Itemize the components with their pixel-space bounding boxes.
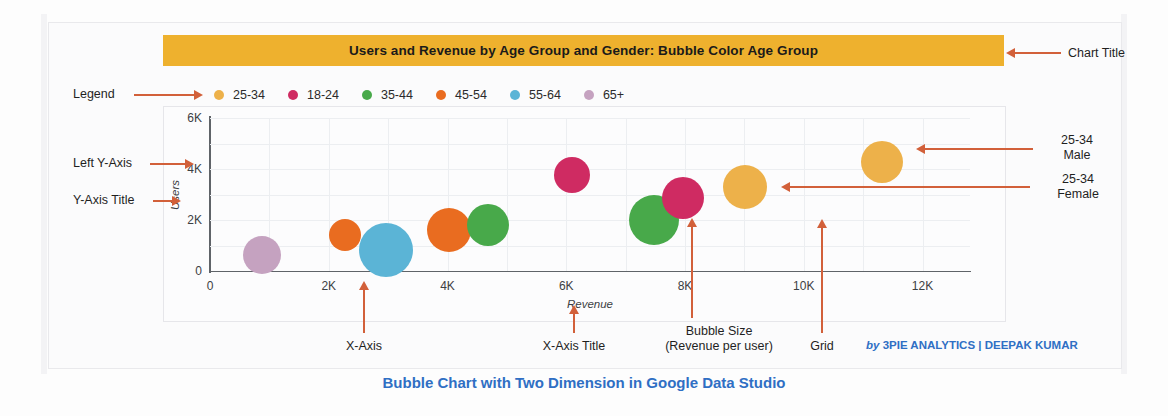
arrow-grid-head xyxy=(817,219,827,228)
gridline-vertical xyxy=(566,118,567,271)
legend-item[interactable]: 35-44 xyxy=(362,88,413,102)
credit-by: by xyxy=(866,339,883,351)
annotation-female-line2: Female xyxy=(1036,187,1120,202)
legend-item[interactable]: 55-64 xyxy=(510,88,561,102)
arrow-female xyxy=(790,186,1030,188)
x-axis-tick-label: 4K xyxy=(440,279,455,293)
arrow-x-axis-title-head xyxy=(569,305,579,314)
page-edge-left xyxy=(41,14,47,374)
y-axis-tick-label: 2K xyxy=(187,213,202,227)
arrow-chart-title-head xyxy=(1006,48,1015,58)
bubble-point[interactable] xyxy=(467,204,509,246)
annotation-bubble-size: Bubble Size (Revenue per user) xyxy=(639,324,799,354)
arrow-left-y-axis xyxy=(150,163,187,165)
annotation-male-line1: 25-34 xyxy=(1040,133,1114,148)
legend-label: 55-64 xyxy=(529,88,561,102)
arrow-female-head xyxy=(781,182,790,192)
annotation-left-y-axis: Left Y-Axis xyxy=(73,156,132,171)
legend-swatch-icon xyxy=(214,90,224,100)
annotation-y-axis-title: Y-Axis Title xyxy=(73,193,134,208)
legend-label: 45-54 xyxy=(455,88,487,102)
bubble-point[interactable] xyxy=(554,157,590,193)
annotation-bubble-size-line1: Bubble Size xyxy=(639,324,799,339)
arrow-male xyxy=(925,148,1033,150)
credit-name: 3PIE ANALYTICS | DEEPAK KUMAR xyxy=(883,339,1078,351)
gridline-vertical xyxy=(626,118,627,271)
legend-item[interactable]: 65+ xyxy=(584,88,624,102)
gridline-horizontal xyxy=(210,169,970,170)
legend-swatch-icon xyxy=(584,90,594,100)
arrow-legend xyxy=(134,94,196,96)
legend-swatch-icon xyxy=(510,90,520,100)
x-axis-tick-label: 2K xyxy=(321,279,336,293)
chart-title-bar: Users and Revenue by Age Group and Gende… xyxy=(163,35,1004,66)
arrow-bubble-size xyxy=(691,226,693,318)
credit-text: by 3PIE ANALYTICS | DEEPAK KUMAR xyxy=(866,339,1078,351)
x-axis-tick-label: 6K xyxy=(559,279,574,293)
bubble-point[interactable] xyxy=(427,208,471,252)
legend-label: 35-44 xyxy=(381,88,413,102)
figure-caption: Bubble Chart with Two Dimension in Googl… xyxy=(0,374,1168,391)
y-axis-tick-label: 6K xyxy=(187,111,202,125)
gridline-vertical xyxy=(329,118,330,271)
annotation-female-line1: 25-34 xyxy=(1036,172,1120,187)
arrow-x-axis-title xyxy=(573,313,575,333)
legend-label: 65+ xyxy=(603,88,624,102)
x-axis-tick-label: 12K xyxy=(912,279,933,293)
bubble-point[interactable] xyxy=(359,223,413,277)
gridline-vertical xyxy=(804,118,805,271)
arrow-male-head xyxy=(916,144,925,154)
arrow-y-axis-title-head xyxy=(172,196,181,206)
legend-label: 25-34 xyxy=(233,88,265,102)
arrow-x-axis-head xyxy=(359,281,369,290)
bubble-point[interactable] xyxy=(723,165,767,209)
x-axis-tick-label: 10K xyxy=(793,279,814,293)
legend-swatch-icon xyxy=(436,90,446,100)
annotation-legend: Legend xyxy=(73,87,115,102)
legend-item[interactable]: 18-24 xyxy=(288,88,339,102)
bubble-point[interactable] xyxy=(861,141,903,183)
legend-swatch-icon xyxy=(362,90,372,100)
arrow-chart-title xyxy=(1015,52,1061,54)
gridline-horizontal xyxy=(210,195,970,196)
bubble-point[interactable] xyxy=(243,236,281,274)
legend-swatch-icon xyxy=(288,90,298,100)
annotation-female: 25-34 Female xyxy=(1036,172,1120,202)
annotation-chart-title: Chart Title xyxy=(1068,46,1125,61)
x-axis-tick-label: 0 xyxy=(207,279,214,293)
chart-title-text: Users and Revenue by Age Group and Gende… xyxy=(349,43,818,58)
annotation-male: 25-34 Male xyxy=(1040,133,1114,163)
arrow-legend-head xyxy=(194,90,203,100)
annotation-grid: Grid xyxy=(796,339,848,354)
annotation-x-axis-title: X-Axis Title xyxy=(529,339,619,354)
x-axis-line xyxy=(209,271,971,273)
annotation-x-axis: X-Axis xyxy=(333,339,395,354)
arrow-bubble-size-head xyxy=(687,218,697,227)
legend-item[interactable]: 25-34 xyxy=(214,88,265,102)
gridline-horizontal xyxy=(210,246,970,247)
gridline-vertical xyxy=(507,118,508,271)
gridline-horizontal xyxy=(210,118,970,119)
gridline-horizontal xyxy=(210,144,970,145)
y-axis-tick-label: 0 xyxy=(195,264,202,278)
arrow-y-axis-title xyxy=(153,200,174,202)
annotation-bubble-size-line2: (Revenue per user) xyxy=(639,339,799,354)
chart-legend: 25-3418-2435-4445-5455-6465+ xyxy=(214,88,647,102)
plot-area: Users Revenue 02K4K6K02K4K6K8K10K12K xyxy=(210,118,970,271)
gridline-vertical xyxy=(923,118,924,271)
bubble-point[interactable] xyxy=(662,177,704,219)
annotation-male-line2: Male xyxy=(1040,148,1114,163)
gridline-vertical xyxy=(863,118,864,271)
arrow-grid xyxy=(821,227,823,333)
legend-label: 18-24 xyxy=(307,88,339,102)
arrow-x-axis xyxy=(363,289,365,333)
screenshot-root: Users and Revenue by Age Group and Gende… xyxy=(0,0,1168,416)
bubble-point[interactable] xyxy=(329,219,361,251)
arrow-left-y-axis-head xyxy=(185,159,194,169)
gridline-horizontal xyxy=(210,220,970,221)
legend-item[interactable]: 45-54 xyxy=(436,88,487,102)
